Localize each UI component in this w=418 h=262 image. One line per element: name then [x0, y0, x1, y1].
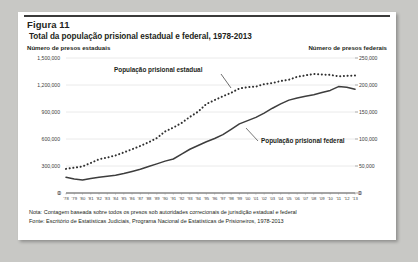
- y-axis-left-tick: 900,000: [42, 109, 60, 115]
- y-axis-left-tick: 1,200,000: [37, 82, 60, 88]
- chart-svg: [18, 12, 396, 240]
- y-axis-left-tick: 300,000: [42, 163, 60, 169]
- y-axis-right-tick: 200,000: [359, 82, 377, 88]
- y-axis-left-tick: 600,000: [42, 136, 60, 142]
- x-axis-tick: '13: [347, 196, 363, 201]
- series-line: [66, 74, 355, 169]
- series-label-state: População prisional estadual: [114, 66, 202, 73]
- y-axis-right-tick: 100,000: [359, 136, 377, 142]
- figure-notes: Nota: Contagem baseada sobre todos os pr…: [29, 208, 389, 225]
- y-axis-left-tick: 1,500,000: [37, 55, 60, 61]
- axis-zero-label-left: 0: [58, 190, 61, 196]
- chart-plot-area: 0300,000600,000900,0001,200,0001,500,000…: [18, 12, 396, 240]
- y-axis-right-tick: 50,000: [359, 163, 375, 169]
- y-axis-right-tick: 150,000: [359, 109, 377, 115]
- source-line: Fonte: Escritório de Estatísticas Judici…: [29, 217, 389, 226]
- axis-zero-label-right: 0: [358, 190, 361, 196]
- note-line: Nota: Contagem baseada sobre todos os pr…: [29, 208, 389, 217]
- y-axis-right-tick: 250,000: [359, 55, 377, 61]
- figure-card: Figura 11 Total da população prisional e…: [18, 12, 396, 240]
- series-label-federal: População prisional federal: [261, 137, 344, 144]
